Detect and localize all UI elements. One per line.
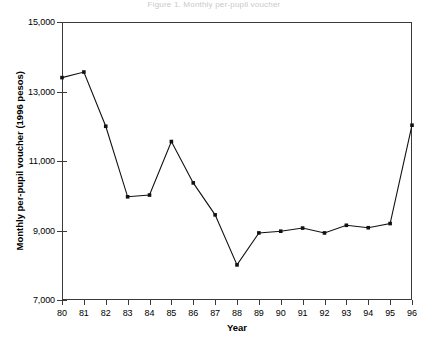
data-point-marker (148, 193, 152, 197)
x-tick-mark (368, 300, 369, 305)
y-tick-label: 13,000 (28, 87, 55, 97)
x-tick-mark (281, 300, 282, 305)
plot-area: 7,0009,00011,00013,00015,000 80818283848… (62, 22, 412, 300)
x-tick-label: 93 (341, 308, 351, 318)
y-tick-label: 15,000 (28, 17, 55, 27)
data-point-marker (345, 223, 349, 227)
x-tick-mark (150, 300, 151, 305)
x-tick-mark (412, 300, 413, 305)
x-tick-mark (259, 300, 260, 305)
x-tick-mark (346, 300, 347, 305)
x-tick-label: 84 (145, 308, 155, 318)
data-point-marker (82, 70, 86, 74)
x-tick-label: 94 (363, 308, 373, 318)
x-tick-mark (62, 300, 63, 305)
data-point-marker (410, 123, 414, 127)
data-point-marker (279, 229, 283, 233)
x-tick-mark (303, 300, 304, 305)
series-line (62, 72, 412, 265)
data-point-marker (366, 226, 370, 230)
x-tick-mark (106, 300, 107, 305)
x-tick-label: 86 (188, 308, 198, 318)
x-tick-label: 89 (254, 308, 264, 318)
data-point-marker (235, 263, 239, 267)
x-tick-mark (193, 300, 194, 305)
chart-figure: Figure 1. Monthly per-pupil voucher 7,00… (0, 0, 428, 339)
x-tick-label: 85 (166, 308, 176, 318)
data-point-marker (388, 222, 392, 226)
x-tick-mark (390, 300, 391, 305)
x-tick-label: 88 (232, 308, 242, 318)
x-tick-label: 87 (210, 308, 220, 318)
data-point-marker (323, 231, 327, 235)
x-tick-label: 80 (57, 308, 67, 318)
x-tick-mark (84, 300, 85, 305)
data-point-marker (257, 231, 261, 235)
data-series (62, 22, 412, 300)
x-tick-mark (325, 300, 326, 305)
data-point-marker (104, 124, 108, 128)
x-tick-mark (128, 300, 129, 305)
data-point-marker (170, 140, 174, 144)
x-tick-label: 95 (385, 308, 395, 318)
x-tick-mark (215, 300, 216, 305)
data-point-marker (191, 181, 195, 185)
x-tick-mark (237, 300, 238, 305)
y-tick-label: 9,000 (33, 226, 55, 236)
x-tick-label: 83 (123, 308, 133, 318)
y-tick-label: 7,000 (33, 295, 55, 305)
x-tick-mark (171, 300, 172, 305)
y-tick-label: 11,000 (29, 156, 55, 166)
x-tick-label: 90 (276, 308, 286, 318)
x-tick-label: 92 (320, 308, 330, 318)
cut-off-caption: Figure 1. Monthly per-pupil voucher (0, 0, 428, 9)
data-point-marker (213, 213, 217, 217)
data-point-marker (126, 195, 130, 199)
x-tick-label: 82 (101, 308, 111, 318)
x-tick-label: 91 (298, 308, 308, 318)
x-axis-label: Year (62, 322, 412, 333)
x-tick-label: 81 (79, 308, 89, 318)
data-point-marker (301, 226, 305, 230)
x-tick-label: 96 (407, 308, 417, 318)
data-point-marker (60, 76, 64, 80)
y-axis-label: Monthly per-pupil voucher (1996 pesos) (14, 71, 25, 250)
